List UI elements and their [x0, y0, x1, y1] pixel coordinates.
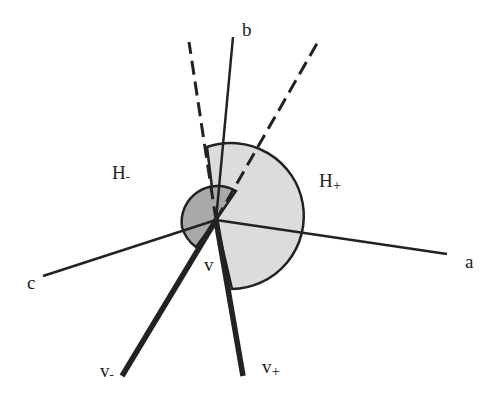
label-c: c [27, 272, 35, 293]
label-h-minus: H- [112, 162, 130, 184]
edge-v-minus [122, 220, 216, 376]
label-b: b [242, 19, 252, 40]
label-v-plus: v+ [262, 356, 280, 379]
label-v: v [204, 254, 214, 275]
vertex-diagram: b a c H- H+ v v- v+ [0, 0, 495, 398]
label-a: a [465, 251, 474, 272]
label-h-plus: H+ [319, 170, 341, 193]
diagram-canvas: b a c H- H+ v v- v+ [0, 0, 495, 398]
label-v-minus: v- [100, 360, 114, 382]
